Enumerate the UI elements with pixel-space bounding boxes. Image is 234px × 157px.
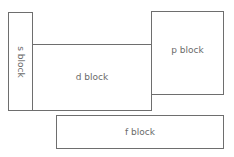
f-block: f block — [56, 115, 224, 149]
d-block-label: d block — [76, 72, 108, 82]
d-block: d block — [32, 44, 152, 111]
s-block-label: s block — [16, 46, 26, 77]
f-block-label: f block — [125, 127, 155, 137]
p-block: p block — [151, 11, 224, 95]
p-block-label: p block — [171, 45, 203, 55]
s-block: s block — [8, 12, 33, 111]
